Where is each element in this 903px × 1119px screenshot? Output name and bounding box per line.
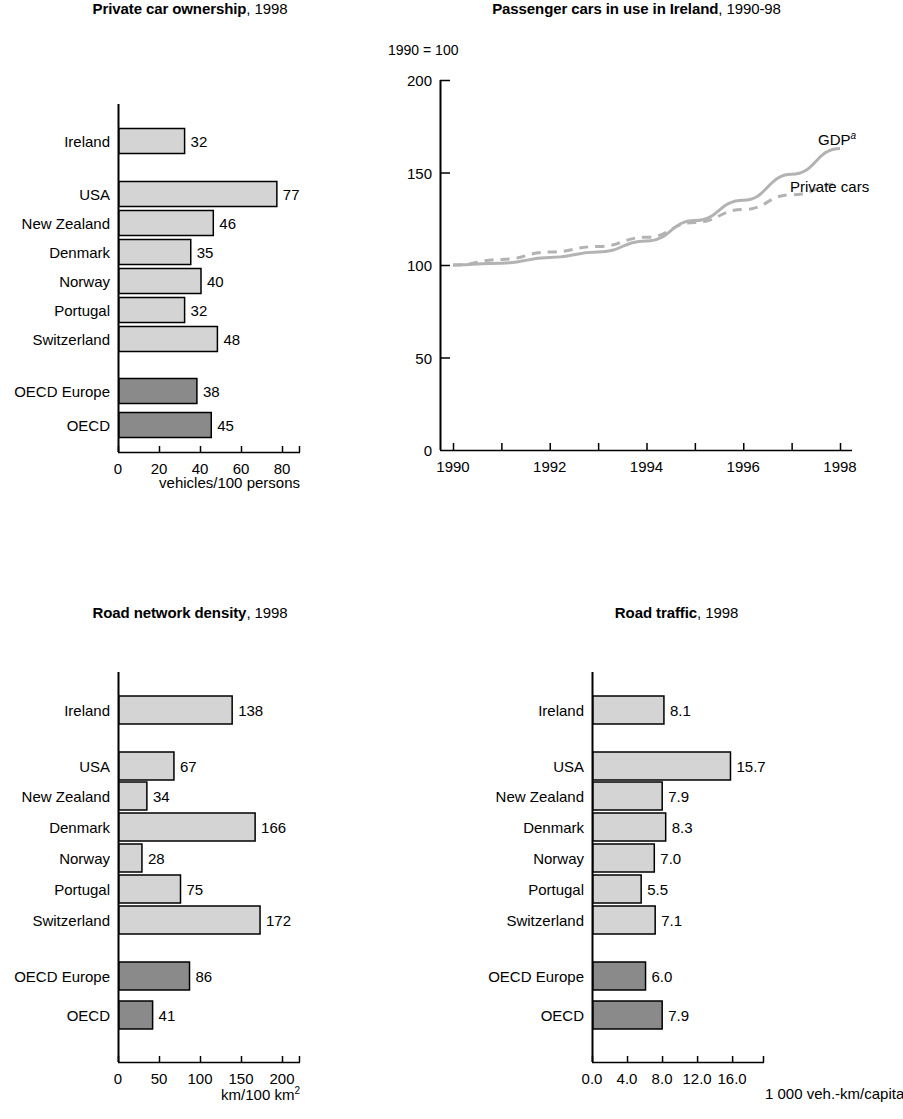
bar-value-label: 5.5 xyxy=(647,881,668,898)
bar-value-label: 6.0 xyxy=(652,968,673,985)
bar-value-label: 45 xyxy=(217,417,234,434)
bar-value-label: 40 xyxy=(207,273,224,290)
bar-value-label: 67 xyxy=(180,758,197,775)
bar-category-label: OECD Europe xyxy=(450,968,584,985)
bar xyxy=(119,298,185,323)
bar-category-label: Switzerland xyxy=(0,912,110,929)
series-label-gdp-text: GDP xyxy=(818,131,851,148)
bar xyxy=(593,875,641,903)
bar xyxy=(593,1001,662,1029)
axis-unit-private-car-ownership: vehicles/100 persons xyxy=(0,474,300,491)
bar-category-label: OECD Europe xyxy=(0,968,110,985)
bar-category-label: Portugal xyxy=(0,881,110,898)
bar-category-label: New Zealand xyxy=(0,215,110,232)
bar xyxy=(119,211,213,236)
bar-value-label: 166 xyxy=(261,819,286,836)
bar-category-label: Portugal xyxy=(0,302,110,319)
axis-unit-road-network-density: km/100 km2 xyxy=(0,1085,300,1103)
series-label-gdp-footnote: a xyxy=(851,130,857,141)
bar-value-label: 172 xyxy=(266,912,291,929)
y-axis-tick-label: 100 xyxy=(370,257,432,274)
bar xyxy=(119,782,147,810)
bar xyxy=(119,752,174,780)
x-axis-tick-label: 12.0 xyxy=(682,1070,711,1087)
bar-value-label: 35 xyxy=(197,244,214,261)
bar-value-label: 8.1 xyxy=(670,702,691,719)
bar-value-label: 7.1 xyxy=(661,912,682,929)
bar-category-label: Portugal xyxy=(450,881,584,898)
bar xyxy=(119,182,277,207)
bar-value-label: 7.9 xyxy=(668,788,689,805)
bar-category-label: OECD Europe xyxy=(0,383,110,400)
bar-category-label: OECD xyxy=(0,1007,110,1024)
bar-value-label: 38 xyxy=(203,383,220,400)
x-axis-tick-label: 1996 xyxy=(727,458,760,475)
bar xyxy=(119,327,217,352)
bar-category-label: Ireland xyxy=(450,702,584,719)
bar xyxy=(119,1001,153,1029)
bar-value-label: 32 xyxy=(191,133,208,150)
bar-category-label: USA xyxy=(450,758,584,775)
bar-category-label: Ireland xyxy=(0,133,110,150)
bar xyxy=(593,782,662,810)
bar xyxy=(119,813,255,841)
axis-unit-text: km/100 km xyxy=(221,1086,294,1103)
bar-value-label: 28 xyxy=(148,850,165,867)
bar-value-label: 7.0 xyxy=(660,850,681,867)
bar xyxy=(119,379,197,404)
y-axis-tick-label: 50 xyxy=(370,349,432,366)
bar-value-label: 32 xyxy=(191,302,208,319)
y-axis-tick-label: 200 xyxy=(370,72,432,89)
bar xyxy=(119,962,190,990)
bar xyxy=(119,413,211,438)
bar-category-label: Ireland xyxy=(0,702,110,719)
x-axis-tick-label: 8.0 xyxy=(652,1070,673,1087)
bar xyxy=(593,752,730,780)
bar-category-label: Denmark xyxy=(450,819,584,836)
bar-value-label: 8.3 xyxy=(672,819,693,836)
bar xyxy=(119,240,191,265)
bar xyxy=(593,813,666,841)
axis-unit-exponent: 2 xyxy=(294,1085,300,1096)
chart-road-network-density: Road network density, 1998 IrelandUSANew… xyxy=(0,580,450,1119)
x-axis-tick-label: 1992 xyxy=(533,458,566,475)
bar-category-label: Denmark xyxy=(0,819,110,836)
axis-unit-road-traffic: 1 000 veh.-km/capita xyxy=(765,1085,900,1102)
bar-value-label: 48 xyxy=(223,331,240,348)
bar-category-label: OECD xyxy=(0,417,110,434)
chart-passenger-cars-in-use: Passenger cars in use in Ireland, 1990-9… xyxy=(370,0,903,510)
bar-value-label: 34 xyxy=(153,788,170,805)
bar-value-label: 86 xyxy=(196,968,213,985)
bar-category-label: New Zealand xyxy=(0,788,110,805)
x-axis-tick-label: 0.0 xyxy=(582,1070,603,1087)
x-axis-tick-label: 16.0 xyxy=(717,1070,746,1087)
line-series-private-cars xyxy=(453,184,840,265)
bar xyxy=(119,696,232,724)
bar-category-label: Switzerland xyxy=(450,912,584,929)
bar-category-label: OECD xyxy=(450,1007,584,1024)
y-axis-tick-label: 150 xyxy=(370,164,432,181)
bar xyxy=(593,696,664,724)
bar-value-label: 75 xyxy=(187,881,204,898)
bar-value-label: 138 xyxy=(238,702,263,719)
chart-road-traffic: Road traffic, 1998 IrelandUSANew Zealand… xyxy=(450,580,903,1119)
bar-category-label: Switzerland xyxy=(0,331,110,348)
bar xyxy=(593,962,646,990)
bar xyxy=(119,875,181,903)
x-axis-tick-label: 1994 xyxy=(630,458,663,475)
bar-category-label: New Zealand xyxy=(450,788,584,805)
bar-category-label: Norway xyxy=(0,850,110,867)
bar-value-label: 46 xyxy=(219,215,236,232)
bar-value-label: 7.9 xyxy=(668,1007,689,1024)
line-chart-svg xyxy=(370,0,903,510)
bar xyxy=(119,844,142,872)
x-axis-tick-label: 4.0 xyxy=(617,1070,638,1087)
bar xyxy=(593,906,655,934)
line-series-gdp xyxy=(453,148,840,265)
bar-value-label: 41 xyxy=(159,1007,176,1024)
bar-category-label: Norway xyxy=(0,273,110,290)
y-axis-tick-label: 0 xyxy=(370,442,432,459)
bar-value-label: 15.7 xyxy=(736,758,765,775)
bar-category-label: Norway xyxy=(450,850,584,867)
bar-category-label: Denmark xyxy=(0,244,110,261)
